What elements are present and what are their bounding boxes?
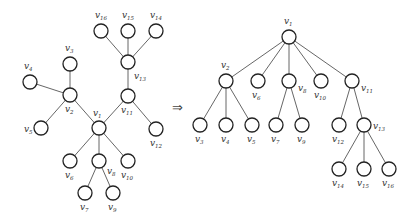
node-circle: [92, 121, 106, 135]
node-label: v6: [252, 90, 261, 101]
node-label: v16: [95, 10, 108, 21]
node-circle: [282, 74, 296, 88]
right-node-v15: v15: [357, 162, 371, 189]
tree-diagram: v1v2v3v4v5v6v7v8v9v10v11v12v13v14v15v16 …: [0, 0, 418, 220]
node-circle: [63, 154, 77, 168]
left-node-v3: v3: [63, 43, 77, 71]
node-label: v3: [65, 43, 74, 54]
node-circle: [34, 121, 48, 135]
node-circle: [78, 186, 92, 200]
node-circle: [121, 89, 135, 103]
left-node-v11: v11: [121, 89, 135, 116]
node-label: v5: [247, 134, 256, 145]
node-circle: [149, 24, 163, 38]
node-circle: [121, 55, 135, 69]
left-node-v14: v14: [149, 10, 163, 38]
right-node-v9: v9: [295, 118, 309, 145]
left-node-v6: v6: [63, 154, 77, 181]
left-node-v7: v7: [78, 186, 92, 213]
node-label: v9: [108, 202, 117, 213]
left-node-v16: v16: [94, 10, 108, 38]
right-edge-v2-v5: [226, 81, 252, 125]
node-label: v11: [121, 105, 133, 116]
node-label: v5: [24, 124, 33, 135]
node-label: v13: [373, 121, 386, 132]
right-node-v6: v6: [251, 74, 265, 101]
node-circle: [251, 74, 265, 88]
right-tree-nodes: v1v2v6v8v10v11v3v4v5v7v9v12v13v14v15v16: [193, 16, 396, 189]
right-edge-v1-v10: [289, 37, 321, 81]
node-label: v8: [107, 166, 116, 177]
right-node-v7: v7: [269, 118, 283, 145]
left-node-v15: v15: [121, 10, 135, 38]
node-circle: [219, 118, 233, 132]
right-node-v12: v12: [332, 118, 346, 145]
node-circle: [345, 74, 359, 88]
left-node-v12: v12: [149, 122, 163, 149]
implies-arrow-icon: ⇒: [172, 100, 183, 115]
node-label: v12: [332, 134, 345, 145]
node-label: v16: [382, 178, 395, 189]
node-label: v12: [150, 138, 163, 149]
left-node-v13: v13: [121, 55, 147, 82]
node-circle: [121, 24, 135, 38]
node-label: v14: [332, 178, 345, 189]
right-edge-v1-v6: [258, 37, 289, 81]
node-circle: [357, 118, 371, 132]
node-label: v8: [298, 83, 307, 94]
node-circle: [332, 118, 346, 132]
node-circle: [295, 118, 309, 132]
right-node-v5: v5: [245, 118, 259, 145]
right-node-v14: v14: [332, 162, 346, 189]
node-circle: [149, 122, 163, 136]
node-circle: [332, 162, 346, 176]
node-label: v4: [24, 61, 33, 72]
right-node-v3: v3: [193, 118, 207, 145]
node-circle: [106, 186, 120, 200]
left-node-v10: v10: [121, 154, 135, 181]
node-circle: [94, 24, 108, 38]
left-node-v1: v1: [92, 108, 106, 135]
node-circle: [121, 154, 135, 168]
right-node-v4: v4: [219, 118, 233, 145]
node-label: v6: [65, 170, 74, 181]
right-tree-edges: [200, 37, 389, 169]
node-label: v3: [195, 134, 204, 145]
node-circle: [357, 162, 371, 176]
node-circle: [245, 118, 259, 132]
node-circle: [219, 74, 233, 88]
node-circle: [63, 88, 77, 102]
left-node-v9: v9: [106, 186, 120, 213]
node-label: v1: [93, 108, 102, 119]
node-label: v2: [65, 104, 74, 115]
left-node-v4: v4: [23, 61, 37, 89]
node-label: v10: [314, 90, 327, 101]
node-circle: [193, 118, 207, 132]
node-circle: [382, 162, 396, 176]
node-label: v7: [271, 134, 280, 145]
node-circle: [92, 154, 106, 168]
node-label: v13: [134, 71, 147, 82]
right-node-v10: v10: [314, 74, 328, 101]
node-label: v1: [284, 16, 293, 27]
node-circle: [314, 74, 328, 88]
node-label: v7: [80, 202, 89, 213]
right-edge-v2-v3: [200, 81, 226, 125]
node-label: v11: [361, 83, 373, 94]
left-tree-nodes: v1v2v3v4v5v6v7v8v9v10v11v12v13v14v15v16: [23, 10, 163, 213]
left-node-v5: v5: [24, 121, 48, 135]
node-label: v15: [122, 10, 135, 21]
node-circle: [63, 57, 77, 71]
node-label: v10: [121, 170, 134, 181]
node-circle: [23, 75, 37, 89]
right-node-v2: v2: [219, 60, 233, 88]
node-label: v15: [357, 178, 370, 189]
node-label: v2: [221, 60, 230, 71]
left-node-v2: v2: [63, 88, 77, 115]
node-circle: [282, 30, 296, 44]
node-label: v9: [297, 134, 306, 145]
right-node-v13: v13: [357, 118, 386, 132]
node-label: v14: [150, 10, 163, 21]
node-label: v4: [221, 134, 230, 145]
right-node-v1: v1: [282, 16, 296, 44]
